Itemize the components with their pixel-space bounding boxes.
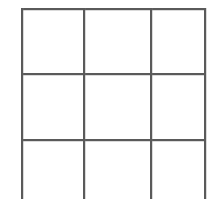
table-cell-r1c1[interactable] <box>23 10 83 73</box>
table-cell-r1c2[interactable] <box>85 10 150 73</box>
table-cell-r2c1[interactable] <box>23 75 83 139</box>
grid-table[interactable] <box>21 8 206 199</box>
table-cell-r3c1[interactable] <box>23 141 83 199</box>
table-cell-r2c3[interactable] <box>152 75 204 139</box>
table-cell-r3c3[interactable] <box>152 141 204 199</box>
table-cell-r2c2[interactable] <box>85 75 150 139</box>
screenshot-canvas <box>0 0 220 199</box>
table-right-border <box>204 8 206 199</box>
table-cell-r1c3[interactable] <box>152 10 204 73</box>
table-cell-r3c2[interactable] <box>85 141 150 199</box>
